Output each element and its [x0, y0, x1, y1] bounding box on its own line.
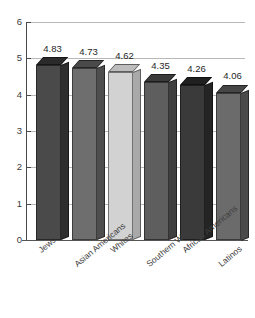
bar-side-face	[205, 82, 213, 240]
y-axis-tick-label: 3	[2, 126, 22, 136]
bar-value-label: 4.62	[105, 51, 144, 61]
y-axis-tick-label: 2	[2, 162, 22, 172]
bar-side-face	[133, 69, 141, 240]
y-axis-top-cap	[26, 22, 31, 23]
category-label: Latinos	[217, 244, 243, 268]
y-axis-tick-label: 0	[2, 235, 22, 245]
bar	[144, 82, 169, 240]
bar-side-face	[97, 65, 105, 240]
y-axis-tick-label: 6	[2, 17, 22, 27]
y-axis-tick-label: 5	[2, 53, 22, 63]
gridline	[26, 22, 245, 23]
bar	[72, 68, 97, 240]
y-axis-line	[26, 22, 27, 240]
bar-value-label: 4.06	[213, 71, 252, 81]
bar	[108, 72, 133, 240]
bar	[180, 85, 205, 240]
bar-value-label: 4.73	[69, 47, 108, 57]
bar-side-face	[61, 61, 69, 240]
bar	[36, 65, 61, 240]
bar-side-face	[241, 89, 249, 240]
bar-front-face	[144, 82, 169, 240]
y-axis-tick-label: 1	[2, 199, 22, 209]
y-axis-tick-label: 4	[2, 90, 22, 100]
bar-front-face	[108, 72, 133, 240]
bar-front-face	[72, 68, 97, 240]
bar-value-label: 4.83	[33, 44, 72, 54]
bar-chart: 0123456 4.834.734.624.354.264.06 JewsAsi…	[0, 0, 255, 318]
bar-value-label: 4.35	[141, 61, 180, 71]
plot-area: 0123456 4.834.734.624.354.264.06 JewsAsi…	[0, 0, 255, 318]
bar-side-face	[169, 79, 177, 240]
bar-front-face	[180, 85, 205, 240]
bar-front-face	[36, 65, 61, 240]
bar-value-label: 4.26	[177, 64, 216, 74]
